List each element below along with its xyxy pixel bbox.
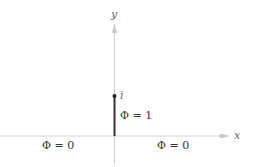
right-phi-label: Φ = 0	[157, 140, 189, 151]
segment-phi-label: Φ = 1	[120, 110, 152, 121]
point-i-label: i	[120, 90, 124, 101]
y-axis-label: y	[111, 9, 117, 20]
point-i-marker	[113, 94, 117, 98]
x-axis-label: x	[234, 130, 240, 141]
diagram-canvas	[0, 0, 260, 167]
y-axis-arrow-icon	[112, 23, 117, 33]
x-axis-arrow-icon	[220, 134, 230, 139]
left-phi-label: Φ = 0	[42, 140, 74, 151]
